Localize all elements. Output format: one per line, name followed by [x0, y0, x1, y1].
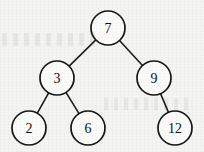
node-label-2: 2	[26, 121, 33, 136]
tree-node-12: 12	[158, 111, 192, 145]
node-layer: 7392612	[12, 11, 192, 145]
binary-tree-figure: 7392612	[0, 0, 204, 152]
node-label-12: 12	[168, 121, 182, 136]
tree-edge-7-to-3	[69, 40, 96, 66]
tree-edge-9-to-12	[161, 94, 169, 113]
node-label-3: 3	[54, 71, 61, 86]
tree-edge-3-to-6	[66, 92, 79, 113]
tree-node-7: 7	[91, 11, 125, 45]
tree-node-2: 2	[12, 111, 46, 145]
tree-node-6: 6	[71, 111, 105, 145]
tree-edge-7-to-9	[120, 41, 143, 66]
node-label-7: 7	[105, 21, 112, 36]
tree-node-3: 3	[40, 61, 74, 95]
node-label-6: 6	[85, 121, 92, 136]
tree-edge-3-to-2	[37, 93, 48, 113]
node-label-9: 9	[151, 71, 158, 86]
tree-diagram-canvas: 7392612	[0, 0, 204, 152]
tree-node-9: 9	[137, 61, 171, 95]
